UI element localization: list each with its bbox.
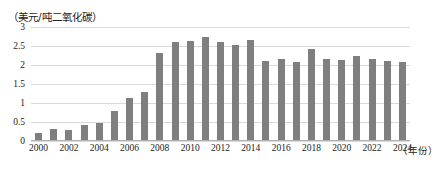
x-axis-tick-label: 2020 [332,143,351,153]
bar [293,62,300,141]
bar [156,53,163,141]
bar [247,40,254,141]
x-axis-tick-label: 2016 [272,143,291,153]
x-axis-tick-label: 2010 [181,143,200,153]
x-axis-tick-label: 2008 [150,143,169,153]
bar [232,45,239,141]
y-axis-tick-label: 1.5 [13,79,25,89]
x-axis-tick-label: 2022 [363,143,382,153]
y-axis-tick-label: 1 [20,98,25,108]
bar [126,98,133,141]
y-axis-tick-labels: 00.511.522.53 [0,27,28,141]
y-axis-tick-label: 3 [20,22,25,32]
x-axis-tick-label: 2004 [90,143,109,153]
y-axis-tick-label: 0 [20,136,25,146]
bar [338,60,345,141]
x-axis-tick-label: 2000 [29,143,48,153]
y-axis-tick-label: 2.5 [13,41,25,51]
x-axis-tick-label: 2002 [59,143,78,153]
bar [217,42,224,141]
bar [202,37,209,142]
bar [81,125,88,141]
y-axis-tick-label: 0.5 [13,117,25,127]
x-axis-line [31,140,410,141]
bar [323,59,330,141]
x-axis-tick-label: 2018 [302,143,321,153]
bar [384,61,391,141]
bar [262,61,269,141]
bar [96,123,103,141]
bar [187,41,194,141]
y-axis-tick-label: 2 [20,60,25,70]
x-axis-tick-label: 2006 [120,143,139,153]
bar [308,49,315,141]
bar-series [31,27,410,141]
bar [399,62,406,141]
bar [141,92,148,141]
bar [111,111,118,141]
x-axis-tick-label: 2012 [211,143,230,153]
gridline [31,141,410,142]
bar-chart: （美元/吨二氧化碳） 00.511.522.53 200020022004200… [0,0,437,172]
bar [172,42,179,141]
x-axis-tick-labels: 2000200220042006200820102012201420162018… [31,143,410,161]
bar [353,56,360,142]
plot-area [31,27,410,141]
bar [369,59,376,141]
x-axis-tick-label: 2014 [241,143,260,153]
bar [278,59,285,141]
x-axis-unit-caption: （年份） [398,143,437,157]
